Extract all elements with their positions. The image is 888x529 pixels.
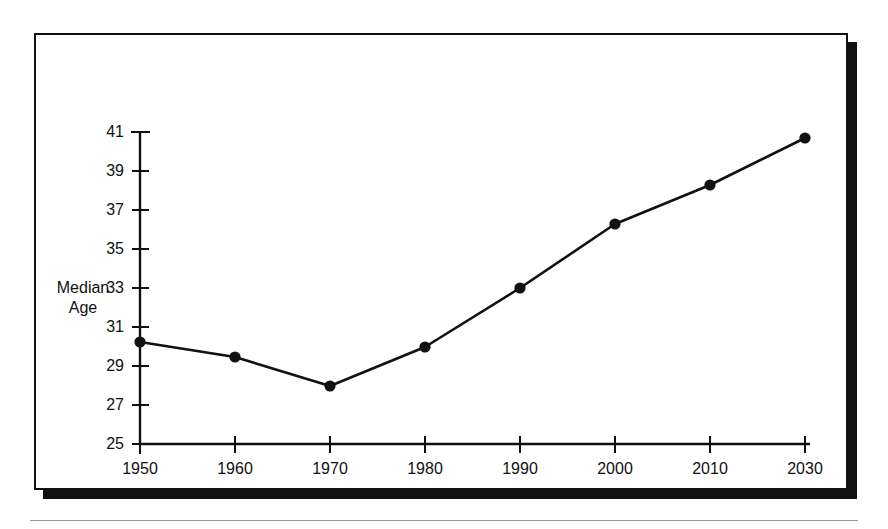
median-age-data-points <box>134 132 810 391</box>
line-chart-svg <box>36 35 850 492</box>
chart-axes <box>140 132 810 444</box>
y-axis-title-line-2: Age <box>44 298 122 318</box>
data-point-1980[interactable] <box>419 341 430 352</box>
y-tick-label-27: 27 <box>92 397 124 413</box>
x-tick-label-2000: 2000 <box>597 461 633 477</box>
x-tick-label-1990: 1990 <box>502 461 538 477</box>
y-tick-label-29: 29 <box>92 358 124 374</box>
chart-plot-area: 41 39 37 35 33 31 29 27 25 1950 1960 197… <box>36 35 850 492</box>
y-axis-title-line-1: Median <box>44 278 122 298</box>
y-axis-title: Median Age <box>44 278 122 317</box>
y-tick-label-39: 39 <box>92 163 124 179</box>
y-tick-label-25: 25 <box>92 436 124 452</box>
data-point-2000[interactable] <box>609 218 620 229</box>
data-point-1990[interactable] <box>514 282 525 293</box>
page-divider-rule <box>30 520 858 521</box>
data-point-1960[interactable] <box>229 351 240 362</box>
figure-frame: 41 39 37 35 33 31 29 27 25 1950 1960 197… <box>34 33 848 490</box>
y-tick-label-35: 35 <box>92 241 124 257</box>
x-tick-label-1980: 1980 <box>407 461 443 477</box>
y-tick-label-41: 41 <box>92 124 124 140</box>
data-point-1950[interactable] <box>134 336 145 347</box>
x-tick-label-1960: 1960 <box>217 461 253 477</box>
y-tick-label-31: 31 <box>92 319 124 335</box>
data-point-2010[interactable] <box>704 179 715 190</box>
x-tick-label-1970: 1970 <box>312 461 348 477</box>
x-tick-label-2030: 2030 <box>787 461 823 477</box>
x-tick-label-2010: 2010 <box>692 461 728 477</box>
data-point-2030[interactable] <box>799 132 810 143</box>
x-tick-label-1950: 1950 <box>122 461 158 477</box>
median-age-line <box>140 138 805 386</box>
data-point-1970[interactable] <box>324 380 335 391</box>
y-tick-label-37: 37 <box>92 202 124 218</box>
